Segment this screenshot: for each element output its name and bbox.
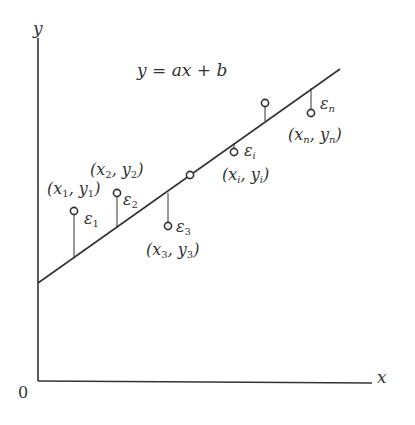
residual-label-2: ε2 [123, 192, 138, 208]
point-label-1: (x1, y1) [47, 181, 100, 197]
equation-label: y = ax + b [137, 62, 227, 79]
data-point-on-line [186, 171, 193, 178]
data-point-n [307, 109, 314, 116]
x-axis [38, 381, 372, 383]
residual-label-n: εn [320, 96, 335, 112]
regression-diagram: y x 0 y = ax + b (x1, y1) ε1 (x2, y2) ε2… [0, 0, 415, 425]
point-label-n: (xn, yn) [288, 127, 342, 143]
origin-label: 0 [18, 385, 28, 401]
point-label-3: (x3, y3) [146, 242, 199, 258]
residual-label-3: ε3 [176, 219, 191, 235]
data-point-2 [113, 189, 120, 196]
data-point-1 [70, 207, 77, 214]
point-label-i: (xi, yi) [222, 167, 269, 183]
data-point-above [261, 99, 268, 106]
data-point-i [230, 148, 237, 155]
point-label-2: (x2, y2) [90, 162, 143, 178]
residual-label-i: εi [244, 143, 256, 159]
y-axis-label: y [33, 20, 43, 37]
data-point-3 [164, 222, 171, 229]
x-axis-label: x [377, 369, 387, 386]
residual-label-1: ε1 [84, 211, 99, 227]
